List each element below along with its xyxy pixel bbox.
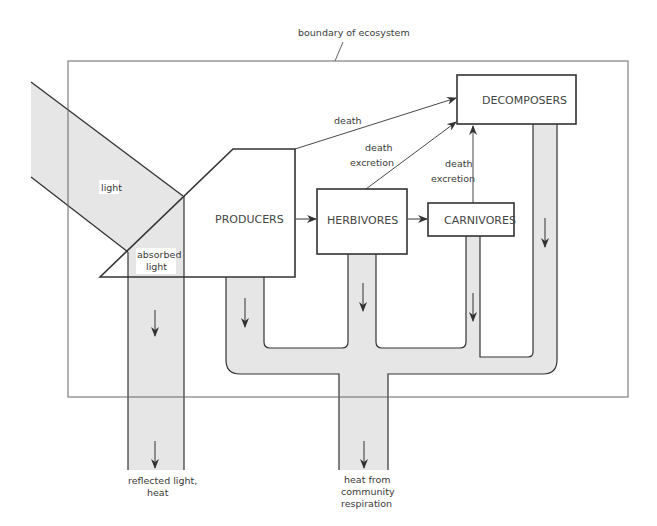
decomposers-node: DECOMPOSERS [457, 75, 576, 124]
death-label-producers: death [334, 115, 361, 126]
reflected-light-label-line2: heat [147, 487, 169, 498]
carnivores-label: CARNIVORES [444, 214, 516, 227]
death-label-carnivores: death [445, 158, 472, 169]
death-label-herbivores: death [365, 142, 392, 153]
boundary-label: boundary of ecosystem [298, 27, 410, 38]
carnivores-node: CARNIVORES [428, 203, 516, 236]
heat-label-line1: heat from [344, 474, 391, 485]
decomposers-label: DECOMPOSERS [482, 94, 567, 107]
boundary-leader-line [335, 42, 343, 61]
excretion-label-herbivores: excretion [350, 157, 394, 168]
heat-label-line2: community [341, 486, 395, 497]
excretion-label-carnivores: excretion [431, 173, 475, 184]
herbivores-node: HERBIVORES [317, 189, 407, 254]
heat-label-line3: respiration [341, 498, 392, 509]
light-label: light [101, 182, 122, 193]
absorbed-label-line1: absorbed [137, 249, 181, 260]
herbivores-label: HERBIVORES [327, 214, 398, 227]
reflected-light-label-line1: reflected light, [128, 475, 197, 486]
absorbed-label-line2: light [146, 261, 167, 272]
producers-label: PRODUCERS [215, 213, 284, 226]
ecosystem-energy-flow-diagram: boundary of ecosystem PRODUCERS absorbed… [0, 0, 657, 526]
